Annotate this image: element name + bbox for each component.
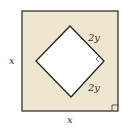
label-left-x: x xyxy=(9,55,15,66)
label-bottom-x: x xyxy=(67,114,73,125)
label-upper-2y: 2y xyxy=(87,32,100,43)
label-lower-2y: 2y xyxy=(87,82,100,93)
square-diagram: 2y 2y x x xyxy=(0,0,122,128)
